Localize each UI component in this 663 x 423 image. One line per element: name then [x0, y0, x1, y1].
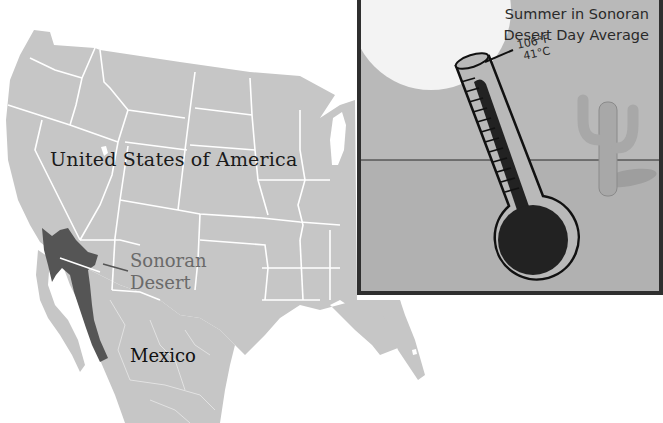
- inset-title-line1: Summer in Sonoran: [459, 4, 649, 25]
- inset-title: Summer in Sonoran Desert Day Average: [459, 4, 649, 46]
- label-mexico: Mexico: [130, 345, 196, 366]
- inset-panel: Summer in Sonoran Desert Day Average 106…: [357, 0, 663, 295]
- inset-title-line2: Desert Day Average: [459, 25, 649, 46]
- label-sonoran-line1: Sonoran: [130, 250, 207, 272]
- label-sonoran-desert: Sonoran Desert: [130, 250, 207, 294]
- label-sonoran-line2: Desert: [130, 272, 207, 294]
- usa-landmass: [6, 30, 405, 355]
- label-usa: United States of America: [50, 148, 297, 170]
